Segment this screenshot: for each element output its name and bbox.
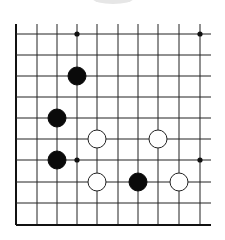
- white-stone[interactable]: [88, 173, 106, 191]
- go-board[interactable]: [0, 0, 225, 240]
- star-point: [197, 31, 202, 36]
- star-point: [197, 157, 202, 162]
- black-stone[interactable]: [129, 173, 147, 191]
- star-point: [74, 157, 79, 162]
- black-stone[interactable]: [48, 151, 66, 169]
- black-stone[interactable]: [68, 67, 86, 85]
- black-stone[interactable]: [48, 109, 66, 127]
- white-stone[interactable]: [149, 130, 167, 148]
- white-stone[interactable]: [88, 130, 106, 148]
- star-point: [74, 31, 79, 36]
- white-stone[interactable]: [170, 173, 188, 191]
